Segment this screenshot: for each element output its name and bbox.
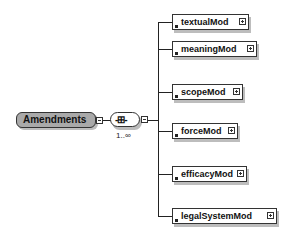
branch-line	[158, 216, 172, 217]
sequence-compositor[interactable]: -⊞-	[110, 112, 140, 127]
element-label: legalSystemMod	[181, 211, 252, 221]
branch-line	[158, 174, 172, 175]
occurrence-label: 1..∞	[116, 131, 131, 140]
expand-icon[interactable]	[237, 170, 244, 177]
expand-icon[interactable]	[239, 18, 246, 25]
element-scopemod[interactable]: scopeMod	[172, 84, 243, 100]
element-label: forceMod	[181, 126, 222, 136]
branch-line	[158, 49, 172, 50]
reference-arrow-icon	[175, 133, 179, 137]
element-label: efficacyMod	[181, 169, 233, 179]
expand-icon[interactable]	[228, 127, 235, 134]
reference-arrow-icon	[175, 218, 179, 222]
root-collapse-icon[interactable]	[96, 117, 103, 124]
element-efficacymod[interactable]: efficacyMod	[172, 166, 247, 182]
expand-icon[interactable]	[233, 88, 240, 95]
element-label: scopeMod	[181, 87, 226, 97]
expand-icon[interactable]	[267, 212, 274, 219]
reference-arrow-icon	[175, 94, 179, 98]
element-legalsystemmod[interactable]: legalSystemMod	[172, 208, 277, 224]
element-textualmod[interactable]: textualMod	[172, 14, 249, 30]
element-forcemod[interactable]: forceMod	[172, 123, 238, 139]
branch-line	[158, 131, 172, 132]
root-element-label: Amendments	[23, 114, 86, 125]
branch-line	[158, 22, 172, 23]
branch-line	[158, 92, 172, 93]
sequence-collapse-icon[interactable]	[141, 116, 148, 123]
expand-icon[interactable]	[247, 45, 254, 52]
root-element-amendments[interactable]: Amendments	[16, 112, 96, 128]
reference-arrow-icon	[175, 51, 179, 55]
element-label: textualMod	[181, 17, 229, 27]
connector-line	[148, 120, 158, 121]
reference-arrow-icon	[175, 176, 179, 180]
sequence-icon: -⊞-	[115, 114, 127, 126]
reference-arrow-icon	[175, 24, 179, 28]
element-meaningmod[interactable]: meaningMod	[172, 41, 257, 57]
element-label: meaningMod	[181, 44, 237, 54]
trunk-line	[158, 22, 159, 217]
